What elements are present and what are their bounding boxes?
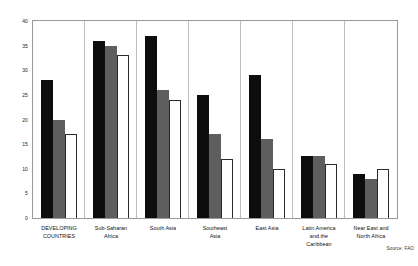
x-axis-label-line: Latin America xyxy=(294,224,344,232)
bar-series-2 xyxy=(105,46,117,218)
y-tick-label: 40 xyxy=(22,19,28,24)
bar-series-3 xyxy=(117,55,129,218)
bar-series-2 xyxy=(157,90,169,218)
x-axis-label-line: COUNTRIES xyxy=(34,232,84,240)
bar-series-2 xyxy=(209,134,221,218)
x-axis-label-line: Southeast xyxy=(190,224,240,232)
x-axis-label-line: North Africa xyxy=(346,232,396,240)
bar-cluster xyxy=(93,21,129,218)
bar-series-1 xyxy=(301,156,313,218)
y-axis: 0510152025303540 xyxy=(0,20,32,219)
bar-series-3 xyxy=(169,100,181,218)
bar-series-1 xyxy=(93,41,105,218)
y-tick-label: 5 xyxy=(25,191,28,196)
bar-series-3 xyxy=(221,159,233,218)
y-tick-label: 15 xyxy=(22,142,28,147)
bar-cluster xyxy=(301,21,337,218)
y-tick-label: 35 xyxy=(22,43,28,48)
bar-group xyxy=(345,21,397,218)
bar-series-2 xyxy=(313,156,325,218)
bar-group xyxy=(85,21,137,218)
bar-group xyxy=(293,21,345,218)
bar-series-1 xyxy=(197,95,209,218)
x-axis-label-line: Sub-Saharan xyxy=(86,224,136,232)
bar-chart: 0510152025303540 DEVELOPINGCOUNTRIESSub-… xyxy=(0,0,418,266)
bar-cluster xyxy=(353,21,389,218)
bar-cluster xyxy=(41,21,77,218)
x-axis-label: Latin Americaand theCaribbean xyxy=(293,224,345,248)
x-axis-label-line: DEVELOPING xyxy=(34,224,84,232)
bar-cluster xyxy=(145,21,181,218)
y-tick-label: 0 xyxy=(25,216,28,221)
y-tick-label: 30 xyxy=(22,68,28,73)
bar-cluster xyxy=(197,21,233,218)
x-axis-label: Near East andNorth Africa xyxy=(345,224,397,248)
y-tick-label: 25 xyxy=(22,92,28,97)
y-tick-label: 20 xyxy=(22,117,28,122)
x-axis-label-line: and the xyxy=(294,232,344,240)
x-axis-labels: DEVELOPINGCOUNTRIESSub-SaharanAfricaSout… xyxy=(33,224,397,248)
bar-cluster xyxy=(249,21,285,218)
bar-series-1 xyxy=(353,174,365,218)
source-note: Source: FAO xyxy=(387,246,414,251)
x-axis-label: East Asia xyxy=(241,224,293,248)
bar-series-2 xyxy=(261,139,273,218)
y-tick-label: 10 xyxy=(22,166,28,171)
x-axis-label-line: Africa xyxy=(86,232,136,240)
x-axis-label-line: East Asia xyxy=(242,224,292,232)
x-axis-label-line: South Asia xyxy=(138,224,188,232)
bar-group xyxy=(137,21,189,218)
bar-series-2 xyxy=(53,120,65,219)
x-axis-label: SoutheastAsia xyxy=(189,224,241,248)
bar-group xyxy=(241,21,293,218)
x-axis-label-line: Near East and xyxy=(346,224,396,232)
bar-group xyxy=(33,21,85,218)
x-axis-label: Sub-SaharanAfrica xyxy=(85,224,137,248)
bar-group xyxy=(189,21,241,218)
x-axis-label-line: Asia xyxy=(190,232,240,240)
bar-series-1 xyxy=(249,75,261,218)
x-axis-label: South Asia xyxy=(137,224,189,248)
bar-series-3 xyxy=(65,134,77,218)
x-axis-label: DEVELOPINGCOUNTRIES xyxy=(33,224,85,248)
bar-series-3 xyxy=(273,169,285,218)
bar-series-2 xyxy=(365,179,377,218)
bar-series-3 xyxy=(377,169,389,218)
bar-groups xyxy=(33,21,397,218)
bar-series-1 xyxy=(41,80,53,218)
bar-series-3 xyxy=(325,164,337,218)
bar-series-1 xyxy=(145,36,157,218)
x-axis-label-line: Caribbean xyxy=(294,240,344,248)
